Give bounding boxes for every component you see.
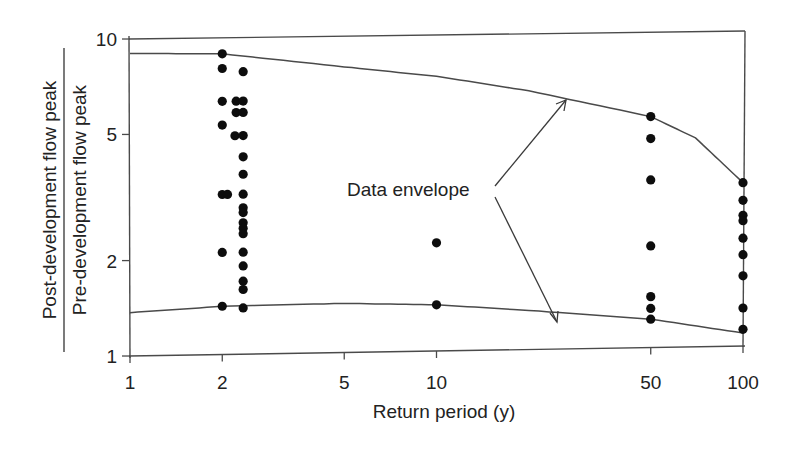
data-point: [239, 170, 248, 179]
y-axis-title-denominator: Pre-development flow peak: [69, 84, 90, 315]
y-tick-label: 2: [106, 251, 117, 272]
x-axis-title: Return period (y): [373, 401, 516, 422]
data-point: [218, 248, 227, 257]
data-point: [230, 131, 239, 140]
x-tick-label: 1: [125, 372, 136, 393]
data-point: [239, 96, 248, 105]
data-point: [239, 208, 248, 217]
data-point: [646, 175, 655, 184]
data-point: [432, 238, 441, 247]
top-frame-line: [129, 31, 745, 39]
data-point: [646, 304, 655, 313]
y-axis-line: [129, 36, 130, 358]
x-axis-ticks: 1251050100: [125, 346, 759, 393]
x-tick-label: 2: [217, 372, 228, 393]
y-tick-label: 10: [96, 29, 117, 50]
data-point: [223, 190, 232, 199]
data-point: [646, 241, 655, 250]
data-point: [738, 178, 747, 187]
data-point: [646, 315, 655, 324]
data-point: [738, 250, 747, 259]
data-point: [239, 229, 248, 238]
scatter-chart: 12510 1251050100 Post-development flow p…: [0, 0, 789, 449]
data-point: [646, 112, 655, 121]
upper-arrow-line: [495, 100, 566, 186]
data-point: [239, 152, 248, 161]
data-point: [239, 190, 248, 199]
y-tick-label: 1: [106, 346, 117, 367]
data-point: [239, 131, 248, 140]
data-point: [218, 64, 227, 73]
data-point: [218, 302, 227, 311]
lower-arrow-line: [495, 197, 557, 322]
x-tick-label: 5: [339, 372, 350, 393]
data-point: [218, 121, 227, 130]
x-tick-label: 10: [426, 372, 447, 393]
y-tick-label: 5: [106, 124, 117, 145]
data-point: [239, 67, 248, 76]
data-point: [738, 196, 747, 205]
data-point: [239, 261, 248, 270]
data-point: [218, 49, 227, 58]
data-point: [239, 285, 248, 294]
data-point: [239, 277, 248, 286]
y-axis-title-numerator: Post-development flow peak: [39, 80, 60, 319]
data-point: [646, 134, 655, 143]
y-axis-ticks: 12510: [96, 29, 130, 367]
data-point: [646, 292, 655, 301]
x-tick-label: 50: [640, 372, 661, 393]
data-point: [218, 97, 227, 106]
data-point: [738, 303, 747, 312]
x-tick-label: 100: [727, 372, 759, 393]
right-frame-line: [743, 31, 745, 347]
annotation-label: Data envelope: [347, 179, 470, 200]
data-point: [738, 325, 747, 334]
data-point: [239, 108, 248, 117]
data-point: [239, 303, 248, 312]
data-point: [432, 300, 441, 309]
data-point: [738, 271, 747, 280]
y-axis-title: Post-development flow peak Pre-developme…: [39, 48, 90, 352]
data-point: [738, 216, 747, 225]
data-point: [738, 234, 747, 243]
data-envelope-annotation: Data envelope: [347, 100, 566, 322]
data-point: [239, 248, 248, 257]
data-points: [218, 49, 748, 334]
